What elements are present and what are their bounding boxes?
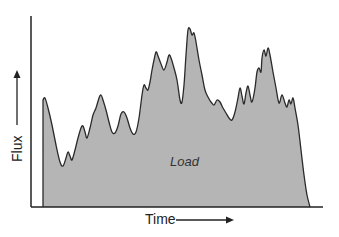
y-axis-label: Flux <box>9 136 25 162</box>
flux-load-chart: Flux Time Load <box>0 0 339 237</box>
x-axis-label: Time <box>145 211 176 227</box>
x-axis-arrow-icon <box>176 217 234 224</box>
area-annotation: Load <box>170 154 200 169</box>
y-axis-arrow-icon <box>14 70 21 125</box>
